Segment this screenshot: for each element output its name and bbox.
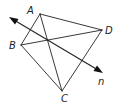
arrowhead-lower-right-icon	[94, 66, 104, 74]
label-D: D	[105, 25, 113, 36]
label-B: B	[9, 40, 16, 51]
diagonal-AC	[40, 14, 62, 91]
label-A: A	[26, 5, 34, 16]
line-n	[14, 20, 98, 70]
geometry-diagram: A B C D n	[0, 0, 118, 107]
diagonal-BD	[21, 30, 102, 45]
arrowhead-upper-left-icon	[9, 17, 19, 25]
segment-AD	[40, 14, 102, 30]
label-C: C	[61, 93, 68, 104]
label-n: n	[98, 76, 104, 87]
